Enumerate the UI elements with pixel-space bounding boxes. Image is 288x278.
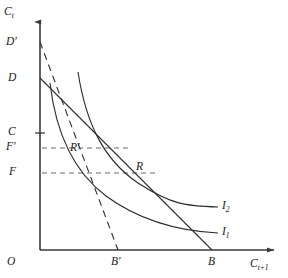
y-mark-f-prime: F′ xyxy=(6,141,16,153)
curve-label-i2: I2 xyxy=(222,200,230,212)
point-label-r: R xyxy=(136,161,143,173)
curve-label-i1: I1 xyxy=(222,226,230,238)
y-axis-label: Ct xyxy=(4,6,14,18)
x-mark-b: B xyxy=(208,256,215,268)
y-mark-f: F xyxy=(9,166,16,178)
x-mark-b-prime: B′ xyxy=(111,256,121,268)
budget-line-db xyxy=(40,78,212,250)
intertemporal-consumption-diagram: Ct Ct+1 D′ D C F′ F O B′ B R′ R I2 I1 xyxy=(0,0,288,278)
indifference-curve-i1 xyxy=(50,83,218,233)
point-label-r-prime: R′ xyxy=(70,142,80,154)
y-mark-c: C xyxy=(8,126,16,138)
y-mark-d: D xyxy=(8,72,16,84)
y-mark-d-prime: D′ xyxy=(6,36,17,48)
x-axis-label: Ct+1 xyxy=(250,258,269,270)
origin-label: O xyxy=(7,256,15,268)
diagram-canvas xyxy=(0,0,288,278)
